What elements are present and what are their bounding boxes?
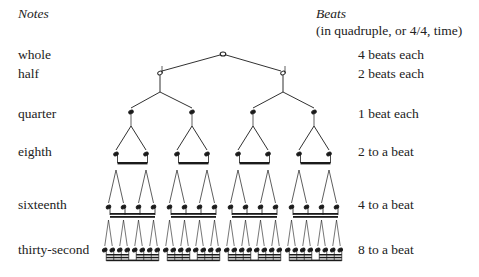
thirty-second-note-icon [163, 247, 169, 252]
thirty-second-beam [167, 257, 190, 259]
sixteenth-note-icon [167, 204, 173, 209]
thirty-second-note-icon [170, 247, 176, 252]
eighth-note-icon [326, 151, 332, 156]
sixteenth-beam [232, 213, 277, 215]
thirty-second-note-icon [109, 247, 115, 252]
thirty-second-beam [319, 257, 342, 259]
thirty-second-note-icon [231, 247, 237, 252]
thirty-second-note-icon [178, 247, 184, 252]
thirty-second-beam [319, 254, 342, 256]
thirty-second-beam [136, 257, 159, 259]
sixteenth-note-icon [106, 204, 112, 209]
thirty-second-note-icon [285, 247, 291, 252]
thirty-second-note-icon [193, 247, 199, 252]
thirty-second-beam [289, 257, 312, 259]
thirty-second-note-icon [224, 247, 230, 252]
quarter-note-icon [250, 109, 256, 114]
thirty-second-beam [228, 257, 251, 259]
eighth-note-icon [296, 151, 302, 156]
thirty-second-note-icon [300, 247, 306, 252]
sixteenth-beam [232, 216, 277, 218]
eighth-note-icon [174, 151, 180, 156]
sixteenth-note-icon [319, 204, 325, 209]
eighth-note-icon [143, 151, 149, 156]
thirty-second-note-icon [330, 247, 336, 252]
thirty-second-note-icon [307, 247, 313, 252]
sixteenth-note-icon [182, 204, 188, 209]
thirty-second-beam [289, 254, 312, 256]
sixteenth-note-icon [304, 204, 310, 209]
thirty-second-note-icon [102, 247, 108, 252]
thirty-second-beam [289, 260, 342, 262]
thirty-second-note-icon [269, 247, 275, 252]
eighth-beam [179, 162, 209, 164]
thirty-second-note-icon [254, 247, 260, 252]
thirty-second-note-icon [208, 247, 214, 252]
sixteenth-beam [293, 213, 338, 215]
thirty-second-note-icon [239, 247, 245, 252]
thirty-second-beam [228, 254, 251, 256]
eighth-beam [240, 162, 270, 164]
sixteenth-note-icon [121, 204, 127, 209]
thirty-second-note-icon [154, 247, 160, 252]
thirty-second-note-icon [215, 247, 221, 252]
thirty-second-beam [197, 257, 220, 259]
thirty-second-note-icon [132, 247, 138, 252]
quarter-note-icon [189, 109, 195, 114]
thirty-second-note-icon [200, 247, 206, 252]
thirty-second-beam [228, 260, 281, 262]
thirty-second-note-icon [337, 247, 343, 252]
eighth-note-icon [265, 151, 271, 156]
thirty-second-beam [136, 254, 159, 256]
sixteenth-note-icon [151, 204, 157, 209]
quarter-note-icon [311, 109, 317, 114]
eighth-note-icon [204, 151, 210, 156]
eighth-beam [118, 162, 148, 164]
sixteenth-beam [171, 213, 216, 215]
sixteenth-note-icon [289, 204, 295, 209]
thirty-second-beam [258, 254, 281, 256]
note-division-tree [0, 0, 479, 277]
thirty-second-beam [106, 254, 129, 256]
sixteenth-beam [110, 213, 155, 215]
sixteenth-note-icon [334, 204, 340, 209]
eighth-beam [301, 162, 331, 164]
sixteenth-beam [110, 216, 155, 218]
sixteenth-note-icon [228, 204, 234, 209]
thirty-second-beam [197, 254, 220, 256]
quarter-note-icon [128, 109, 134, 114]
sixteenth-beam [171, 216, 216, 218]
thirty-second-note-icon [315, 247, 321, 252]
thirty-second-note-icon [124, 247, 130, 252]
eighth-note-icon [235, 151, 241, 156]
sixteenth-note-icon [243, 204, 249, 209]
thirty-second-note-icon [185, 247, 191, 252]
thirty-second-note-icon [147, 247, 153, 252]
thirty-second-note-icon [276, 247, 282, 252]
sixteenth-note-icon [258, 204, 264, 209]
thirty-second-note-icon [322, 247, 328, 252]
thirty-second-note-icon [261, 247, 267, 252]
sixteenth-note-icon [212, 204, 218, 209]
eighth-note-icon [113, 151, 119, 156]
thirty-second-note-icon [139, 247, 145, 252]
thirty-second-note-icon [292, 247, 298, 252]
thirty-second-beam [106, 257, 129, 259]
sixteenth-note-icon [197, 204, 203, 209]
whole-note-icon [220, 52, 226, 56]
sixteenth-note-icon [136, 204, 142, 209]
thirty-second-note-icon [117, 247, 123, 252]
thirty-second-beam [106, 260, 159, 262]
sixteenth-note-icon [273, 204, 279, 209]
sixteenth-beam [293, 216, 338, 218]
thirty-second-beam [167, 260, 220, 262]
thirty-second-note-icon [246, 247, 252, 252]
thirty-second-beam [167, 254, 190, 256]
thirty-second-beam [258, 257, 281, 259]
